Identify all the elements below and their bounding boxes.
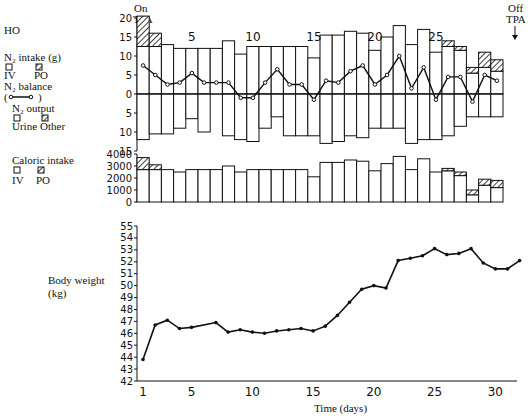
- n2-balance-point: [483, 73, 487, 77]
- body-weight-point: [251, 330, 255, 334]
- body-weight-point: [360, 287, 364, 291]
- n2-urine-bar: [442, 94, 454, 136]
- n2-urine-bar: [161, 94, 173, 134]
- cal-iv-bar: [454, 176, 466, 202]
- n2-balance-point: [349, 69, 353, 73]
- bw-x-tick: 25: [427, 385, 442, 399]
- n2-y-tick: 0: [126, 89, 132, 100]
- n2-iv-bar: [344, 31, 356, 94]
- cal-iv-bar: [174, 172, 186, 202]
- body-weight-point: [311, 329, 315, 333]
- n2-y-tick: 10: [119, 127, 132, 138]
- n2-urine-bar: [454, 94, 466, 126]
- svg-text:(: (: [4, 91, 8, 104]
- n2-iv-bar: [454, 50, 466, 94]
- cal-iv-bar: [296, 170, 308, 202]
- n2-balance-point: [471, 100, 475, 104]
- n2-urine-bar: [369, 94, 381, 128]
- body-weight-point: [336, 314, 340, 318]
- legend-n2-balance: N₂ balance: [4, 80, 52, 92]
- body-weight-point: [323, 324, 327, 328]
- bw-y-tick: 48: [120, 304, 133, 315]
- bw-y-tick: 47: [120, 316, 133, 327]
- body-weight-point: [481, 261, 485, 265]
- cal-iv-bar: [430, 172, 442, 202]
- cal-iv-bar: [357, 161, 369, 202]
- bw-y-tick: 49: [120, 292, 133, 303]
- body-weight-panel: 4243444546474849505152535455151015202530: [120, 221, 521, 400]
- body-weight-point: [287, 328, 291, 332]
- body-weight-point: [409, 256, 413, 260]
- body-weight-point: [396, 259, 400, 263]
- body-weight-point: [384, 286, 388, 290]
- bw-y-tick: 46: [120, 328, 133, 339]
- cal-po-bar: [137, 158, 149, 170]
- n2-y-tick: 15: [119, 32, 132, 43]
- n2-po-bar: [491, 60, 503, 71]
- n2-y-tick: 20: [119, 13, 132, 24]
- n2-balance-point: [495, 79, 499, 83]
- n2-balance-point: [361, 64, 365, 68]
- body-weight-point: [238, 328, 242, 332]
- bw-y-tick: 45: [120, 340, 133, 351]
- n2-urine-bar: [418, 94, 430, 140]
- n2-day-tick: 25: [428, 30, 443, 44]
- n2-iv-bar: [479, 67, 491, 94]
- n2-urine-bar: [332, 94, 344, 142]
- n2-balance-point: [202, 81, 206, 85]
- patient-label: HO: [4, 24, 20, 36]
- n2-urine-bar: [186, 94, 198, 119]
- cal-iv-bar: [308, 177, 320, 202]
- cal-iv-bar: [332, 162, 344, 202]
- cal-iv-bar: [235, 172, 247, 202]
- bw-x-tick: 20: [366, 385, 381, 399]
- n2-iv-bar: [296, 47, 308, 95]
- cal-po-bar: [149, 165, 161, 170]
- legend-cal-iv: IV: [12, 174, 24, 186]
- n2-urine-bar: [247, 94, 259, 142]
- n2-iv-bar: [247, 47, 259, 95]
- body-weight-point: [214, 321, 218, 325]
- bw-y-tick: 43: [120, 364, 133, 375]
- n2-urine-bar: [271, 94, 283, 117]
- cal-iv-bar: [137, 170, 149, 202]
- n2-iv-bar: [393, 26, 405, 94]
- cal-iv-bar: [259, 170, 271, 202]
- n2-balance-point: [398, 54, 402, 58]
- cal-iv-bar: [418, 159, 430, 202]
- off-tpa-arrow-icon: [512, 26, 518, 40]
- n2-po-bar: [442, 41, 454, 47]
- cal-iv-bar: [393, 156, 405, 202]
- body-weight-point: [178, 327, 182, 331]
- n2-iv-bar: [308, 58, 320, 94]
- bw-x-tick: 5: [188, 385, 196, 399]
- n2-iv-bar: [198, 48, 210, 94]
- n2-balance-point: [446, 75, 450, 79]
- n2-po-bar: [137, 16, 149, 46]
- body-weight-point: [348, 301, 352, 305]
- bw-x-tick: 10: [245, 385, 260, 399]
- n2-urine-bar: [296, 94, 308, 136]
- n2-po-bar: [149, 33, 161, 46]
- off-tpa-label-2: TPA: [506, 13, 526, 25]
- body-weight-point: [506, 267, 510, 271]
- cal-y-tick: 1000: [107, 185, 132, 196]
- caloric-panel: 40003000200010000: [107, 149, 503, 208]
- n2-balance-point: [141, 64, 145, 68]
- cal-iv-bar: [442, 171, 454, 202]
- n2-urine-bar: [344, 94, 356, 136]
- cal-iv-bar: [405, 170, 417, 202]
- bw-y-tick: 54: [120, 232, 133, 243]
- n2-urine-bar: [283, 94, 295, 136]
- n2-balance-point: [251, 96, 255, 100]
- body-weight-unit: (kg): [48, 287, 67, 300]
- n2-day-tick: 10: [245, 30, 260, 44]
- bw-y-tick: 55: [120, 221, 133, 232]
- cal-po-bar: [491, 180, 503, 187]
- bw-y-tick: 51: [120, 268, 133, 279]
- cal-iv-bar: [283, 170, 295, 202]
- legend-other: Other: [40, 120, 65, 132]
- cal-po-bar: [479, 179, 491, 185]
- n2-y-tick: 10: [119, 51, 132, 62]
- n2-urine-bar: [491, 94, 503, 117]
